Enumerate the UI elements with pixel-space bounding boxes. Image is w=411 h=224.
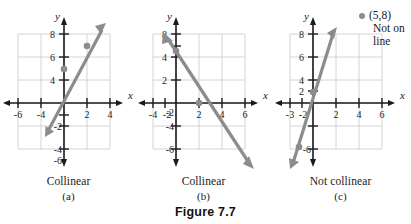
y-axis-arrow-down-b xyxy=(173,159,179,167)
y-axis-arrow-up-c xyxy=(310,17,316,25)
data-point-c-0 xyxy=(310,89,317,96)
y-tick-label-a-5: -6 xyxy=(54,155,62,166)
y-axis-label-a: y xyxy=(54,10,60,22)
x-axis-arrow-right-c xyxy=(388,100,395,106)
x-axis-label-b: x xyxy=(262,89,268,101)
x-tick-label-c-2: 2 xyxy=(334,109,339,120)
y-tick-label-c-0: 8 xyxy=(299,29,304,40)
x-tick-label-c-0: -3 xyxy=(286,109,294,120)
x-axis-arrow-right-b xyxy=(251,100,258,106)
x-tick-label-b-2: 2 xyxy=(197,109,202,120)
data-point-b-1 xyxy=(196,100,203,107)
x-axis-label-a: x xyxy=(127,89,133,101)
panel-letter-a: (a) xyxy=(0,190,137,202)
annotation-not-on: Not on xyxy=(373,22,405,36)
x-tick-label-a-1: -4 xyxy=(37,109,45,120)
x-tick-label-b-4: 6 xyxy=(243,109,248,120)
line-arrow-end-a xyxy=(95,23,106,34)
y-tick-label-b-4: -4 xyxy=(166,121,174,132)
y-axis-arrow-down-c xyxy=(310,159,316,167)
y-tick-label-c-4: -6 xyxy=(303,144,311,155)
coordinate-plane-a: -6 -4 2 4 8 6 4 -2 -4 -6 x y xyxy=(0,8,137,173)
panel-caption-b: Collinear xyxy=(135,175,272,187)
data-point-a-0 xyxy=(61,66,68,73)
data-point-c-1 xyxy=(296,144,303,151)
figure-caption: Figure 7.7 xyxy=(0,205,411,219)
annotation-coordinate: (5,8) xyxy=(369,9,391,23)
panel-caption-c: Not collinear xyxy=(272,175,409,187)
y-tick-label-c-3: 2 xyxy=(299,86,304,97)
panel-letter-b: (b) xyxy=(135,190,272,202)
coordinate-plane-b: -4 -2 2 4 6 8 4 2 -2 -4 -6 x y xyxy=(135,8,272,173)
y-tick-label-a-1: 6 xyxy=(50,52,55,63)
y-tick-label-b-1: 4 xyxy=(162,52,167,63)
figure-7-7: -6 -4 2 4 8 6 4 -2 -4 -6 x y Collinear (… xyxy=(0,0,411,224)
panel-caption-a: Collinear xyxy=(0,175,137,187)
y-tick-label-b-5: -6 xyxy=(166,144,174,155)
x-tick-label-c-4: 6 xyxy=(380,109,385,120)
x-axis-arrow-left-c xyxy=(275,100,282,106)
x-axis-arrow-left-a xyxy=(3,100,10,106)
y-tick-label-b-3: -2 xyxy=(166,107,174,118)
plotted-line-a xyxy=(48,30,102,131)
x-tick-label-c-3: 4 xyxy=(357,109,362,120)
graph-panel-b: -4 -2 2 4 6 8 4 2 -2 -4 -6 x y Collinear… xyxy=(135,0,272,224)
data-point-b-0 xyxy=(173,48,180,55)
y-axis-arrow-up-a xyxy=(61,17,67,25)
line-arrow-end-c xyxy=(327,27,337,39)
y-axis-label-b: y xyxy=(166,10,172,22)
x-tick-label-a-3: 4 xyxy=(108,109,113,120)
y-tick-label-c-2: 4 xyxy=(299,75,304,86)
x-axis-label-c: x xyxy=(399,89,405,101)
y-axis-label-c: y xyxy=(303,10,309,22)
y-tick-label-a-4: -4 xyxy=(54,144,62,155)
x-tick-label-b-0: -4 xyxy=(149,109,157,120)
annotation-point-dot-icon xyxy=(359,13,365,19)
y-tick-label-a-3: -2 xyxy=(54,121,62,132)
x-axis-arrow-left-b xyxy=(138,100,145,106)
y-tick-label-b-2: 2 xyxy=(162,75,167,86)
x-tick-label-a-0: -6 xyxy=(14,109,22,120)
panel-letter-c: (c) xyxy=(272,190,409,202)
x-axis-arrow-right-a xyxy=(116,100,123,106)
y-axis-arrow-up-b xyxy=(173,17,179,25)
data-point-a-1 xyxy=(84,43,91,50)
y-tick-label-c-1: 6 xyxy=(299,52,304,63)
y-tick-label-a-0: 8 xyxy=(50,29,55,40)
x-tick-label-a-2: 2 xyxy=(85,109,90,120)
plotted-line-b xyxy=(168,39,249,163)
annotation-line: line xyxy=(373,35,390,49)
y-tick-label-a-2: 4 xyxy=(50,75,55,86)
graph-panel-a: -6 -4 2 4 8 6 4 -2 -4 -6 x y Collinear (… xyxy=(0,0,137,224)
